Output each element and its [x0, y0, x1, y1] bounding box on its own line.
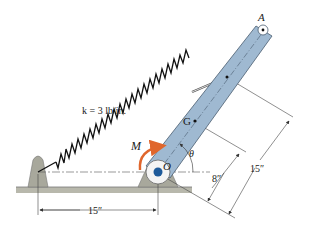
label-dim-attach: 15″ — [250, 163, 264, 174]
label-O: O — [163, 160, 171, 172]
center-of-mass-G — [193, 119, 196, 122]
mechanism-diagram: A G O M θ k = 3 lb/in. 15″ 8″ 15″ — [0, 0, 310, 234]
spring-attach-point — [226, 76, 229, 79]
label-theta: θ — [189, 148, 194, 159]
label-dim-G: 8″ — [212, 173, 221, 184]
label-G: G — [183, 115, 191, 127]
label-spring-constant: k = 3 lb/in. — [82, 105, 126, 116]
label-dim-horizontal: 15″ — [88, 205, 102, 216]
label-A: A — [257, 11, 265, 23]
pin-O — [154, 168, 163, 177]
ground — [16, 187, 192, 193]
label-M: M — [130, 139, 142, 153]
